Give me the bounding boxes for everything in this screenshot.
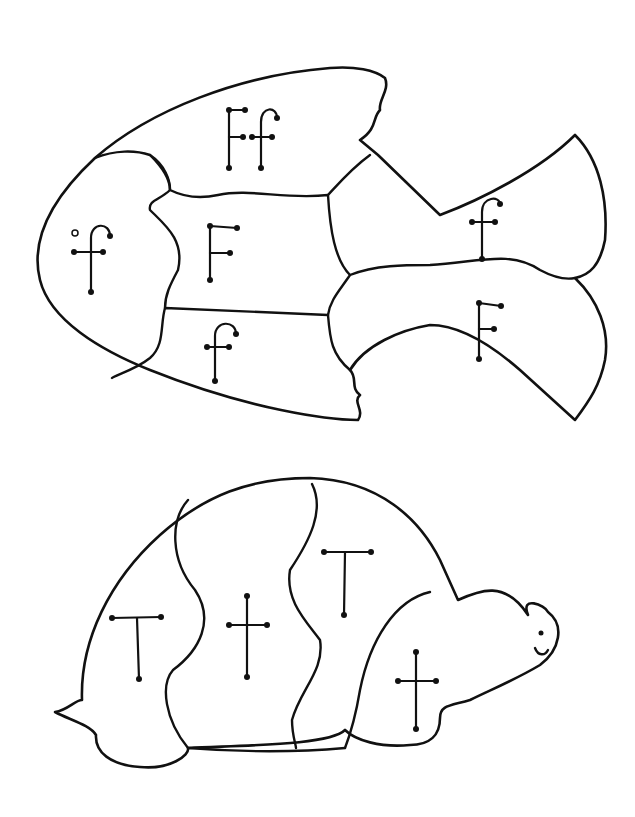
turtle-puzzle [0,0,635,817]
turtle-eye-icon [539,631,544,636]
worksheet-page: Ff f F f f F T t T t [0,0,635,817]
turtle-base [188,748,345,751]
